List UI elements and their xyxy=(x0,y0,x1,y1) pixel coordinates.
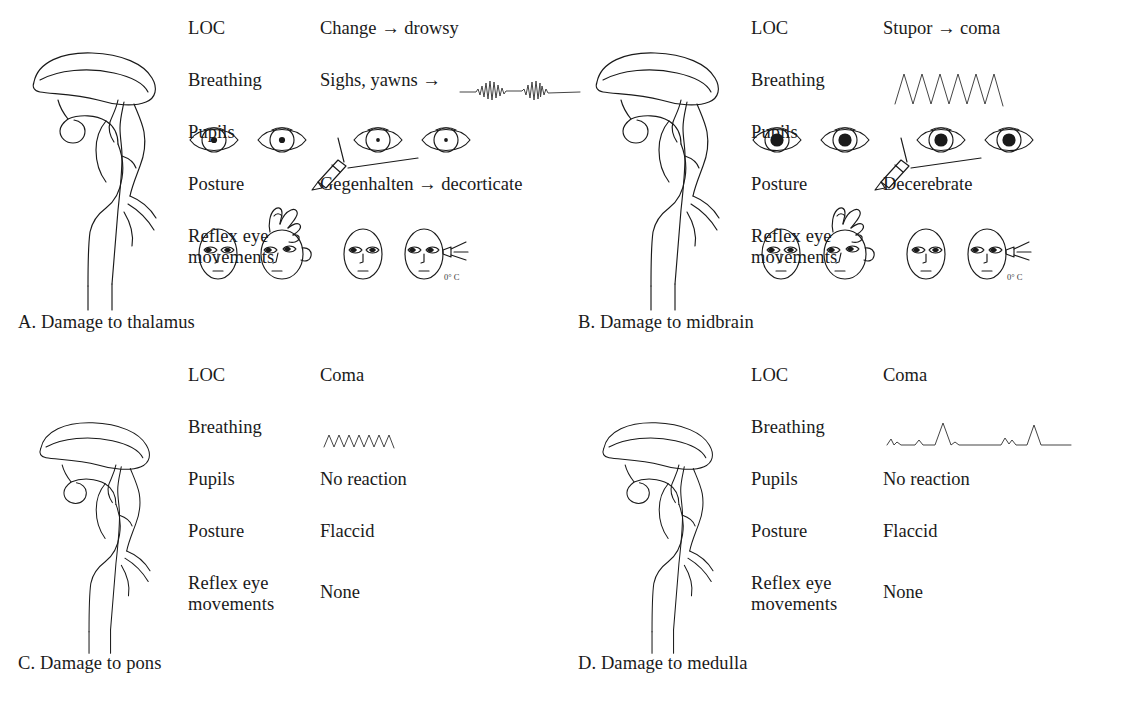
row-label-loc: LOC xyxy=(188,365,225,386)
row-label-loc: LOC xyxy=(751,365,788,386)
dolls-eye-and-caloric-faces-icon: 0° C xyxy=(751,204,1041,288)
face-neutral-2 xyxy=(907,229,945,279)
row-value-loc: Change → drowsy xyxy=(320,18,459,39)
row-value-loc: Coma xyxy=(320,365,364,386)
row-label-posture: Posture xyxy=(751,521,807,542)
brain-icon xyxy=(581,395,741,655)
caloric-temperature-label: 0° C xyxy=(444,272,460,282)
row-label-posture: Posture xyxy=(188,521,244,542)
panel-c-rows: LOC Coma Breathing Pupils No reaction Po… xyxy=(188,357,558,625)
face-caloric: 0° C xyxy=(405,229,468,282)
row-value-posture: Flaccid xyxy=(883,521,937,542)
panel-a-rows: LOC Change → drowsy Breathing Sighs, yaw… xyxy=(188,10,558,278)
panel-d-medulla: LOC Coma Breathing Pupils No reaction Po… xyxy=(563,345,1126,719)
apneustic-cluster-waveform-icon xyxy=(322,427,422,453)
hand-icon xyxy=(269,208,300,243)
row-label-posture: Posture xyxy=(188,174,244,195)
row-pupils: Pupils No reaction xyxy=(188,461,558,513)
row-value-loc: Coma xyxy=(883,365,927,386)
row-breathing: Breathing xyxy=(188,409,558,461)
face-dolls-eye xyxy=(824,208,874,279)
row-value-reflex-eye-movements: None xyxy=(883,582,923,603)
row-loc: LOC Coma xyxy=(188,357,558,409)
row-label-posture: Posture xyxy=(751,174,807,195)
panel-a-caption: A. Damage to thalamus xyxy=(18,312,195,333)
row-reflex-eye-movements: Reflex eye movements xyxy=(188,218,558,278)
cheyne-stokes-waveform-icon xyxy=(460,74,580,108)
row-value-pupils: No reaction xyxy=(320,469,407,490)
face-caloric: 0° C xyxy=(968,229,1031,282)
row-label-breathing: Breathing xyxy=(751,417,825,438)
row-reflex-eye-movements: Reflex eye movements None xyxy=(188,565,558,625)
row-label-breathing: Breathing xyxy=(188,70,262,91)
panel-b-midbrain: LOC Stupor → coma Breathing Pupils xyxy=(563,0,1126,352)
brain-icon xyxy=(581,22,741,312)
row-value-breathing: Sighs, yawns → xyxy=(320,70,441,91)
row-label-loc: LOC xyxy=(188,18,225,39)
face-neutral-2 xyxy=(344,229,382,279)
row-breathing: Breathing Sighs, yawns → xyxy=(188,62,558,114)
row-value-posture: Decerebrate xyxy=(883,174,972,195)
brain-icon xyxy=(18,22,178,312)
panel-b-caption: B. Damage to midbrain xyxy=(578,312,754,333)
row-pupils: Pupils xyxy=(188,114,558,166)
caloric-temperature-label: 0° C xyxy=(1007,272,1023,282)
row-label-pupils: Pupils xyxy=(188,469,235,490)
panel-c-caption: C. Damage to pons xyxy=(18,653,162,674)
hand-icon xyxy=(832,208,863,243)
row-breathing: Breathing xyxy=(751,62,1121,114)
dolls-eye-and-caloric-faces-icon: 0° C xyxy=(188,204,478,288)
row-value-posture: Flaccid xyxy=(320,521,374,542)
row-label-breathing: Breathing xyxy=(188,417,262,438)
row-loc: LOC Coma xyxy=(751,357,1121,409)
panel-d-caption: D. Damage to medulla xyxy=(578,653,747,674)
row-label-breathing: Breathing xyxy=(751,70,825,91)
row-value-reflex-eye-movements: None xyxy=(320,582,360,603)
row-label-reflex-eye-movements: Reflex eye movements xyxy=(188,573,274,615)
face-neutral-1 xyxy=(199,229,237,279)
row-breathing: Breathing xyxy=(751,409,1121,461)
brain-icon xyxy=(18,395,178,655)
row-loc: LOC Change → drowsy xyxy=(188,10,558,62)
row-label-loc: LOC xyxy=(751,18,788,39)
syringe-icon xyxy=(443,242,468,260)
panel-c-pons: LOC Coma Breathing Pupils No reaction Po… xyxy=(0,345,563,719)
row-value-pupils: No reaction xyxy=(883,469,970,490)
row-value-loc: Stupor → coma xyxy=(883,18,1000,39)
panel-b-rows: LOC Stupor → coma Breathing Pupils xyxy=(751,10,1121,278)
row-reflex-eye-movements: Reflex eye movements xyxy=(751,218,1121,278)
central-neurogenic-hyperventilation-waveform-icon xyxy=(893,68,1023,110)
panel-d-rows: LOC Coma Breathing Pupils No reaction Po… xyxy=(751,357,1121,625)
row-label-reflex-eye-movements: Reflex eye movements xyxy=(751,573,837,615)
face-dolls-eye xyxy=(261,208,311,279)
row-value-posture: Gegenhalten → decorticate xyxy=(320,174,522,195)
row-posture: Posture Flaccid xyxy=(188,513,558,565)
ataxic-waveform-icon xyxy=(885,415,1075,453)
row-posture: Posture Flaccid xyxy=(751,513,1121,565)
row-reflex-eye-movements: Reflex eye movements None xyxy=(751,565,1121,625)
panel-a-thalamus: LOC Change → drowsy Breathing Sighs, yaw… xyxy=(0,0,563,352)
row-loc: LOC Stupor → coma xyxy=(751,10,1121,62)
syringe-icon xyxy=(1006,242,1031,260)
row-pupils: Pupils No reaction xyxy=(751,461,1121,513)
row-label-pupils: Pupils xyxy=(751,469,798,490)
face-neutral-1 xyxy=(762,229,800,279)
row-pupils: Pupils xyxy=(751,114,1121,166)
